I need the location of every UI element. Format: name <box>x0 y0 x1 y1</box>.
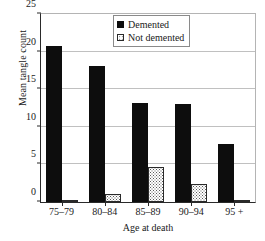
y-axis-tick-label: 15 <box>26 74 41 84</box>
bar-demented <box>89 66 105 202</box>
bar-demented <box>46 46 62 202</box>
x-axis-tick-label: 85–89 <box>126 206 169 218</box>
bar-chart-figure: Mean tangle count 0510152025 75–7980–848… <box>0 0 265 241</box>
bar-not-demented <box>148 167 164 202</box>
x-axis-tick-label: 95 + <box>213 206 256 218</box>
chart-legend: DementedNot demented <box>113 15 190 47</box>
legend-item: Demented <box>117 18 184 31</box>
y-axis-tick-label: 5 <box>31 149 41 159</box>
bar-group <box>212 14 255 202</box>
x-axis-tick-label: 75–79 <box>40 206 83 218</box>
bar-not-demented <box>105 194 121 202</box>
bar-not-demented <box>234 200 250 202</box>
bar-demented <box>218 144 234 202</box>
y-axis-tick-label: 10 <box>26 112 41 122</box>
legend-item: Not demented <box>117 31 184 44</box>
y-axis-tick-label: 25 <box>26 0 41 9</box>
solid-black-square-icon <box>117 21 124 28</box>
x-axis-tick-label: 80–84 <box>83 206 126 218</box>
bar-demented <box>175 104 191 202</box>
x-axis-tick-labels: 75–7980–8485–8990–9495 + <box>40 206 256 218</box>
bar-demented <box>132 103 148 202</box>
legend-item-label: Not demented <box>128 31 184 44</box>
bar-group <box>41 14 84 202</box>
y-axis-tick-label: 20 <box>26 37 41 47</box>
bar-not-demented <box>62 200 78 202</box>
dotted-square-icon <box>117 34 124 41</box>
y-axis-tick-label: 0 <box>31 187 41 197</box>
bar-not-demented <box>191 184 207 202</box>
legend-item-label: Demented <box>128 18 169 31</box>
x-axis-tick-label: 90–94 <box>170 206 213 218</box>
x-axis-title: Age at death <box>40 222 256 234</box>
